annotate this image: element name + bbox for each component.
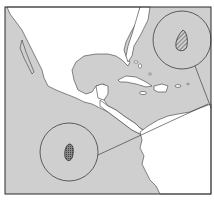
island-puerto-rico [175, 85, 181, 88]
inset-atlantic [153, 11, 211, 69]
map [0, 0, 214, 201]
inset-pacific [40, 123, 98, 181]
stippled-marker-icon [65, 144, 74, 161]
island-hispaniola [154, 84, 168, 92]
island-jamaica [140, 91, 147, 94]
